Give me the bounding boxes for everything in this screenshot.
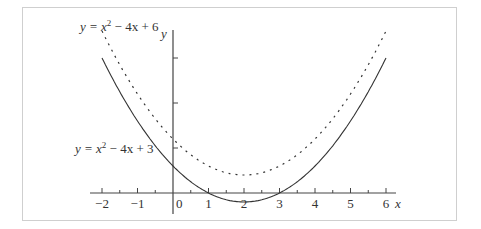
x-tick-label: 4 xyxy=(312,196,319,211)
x-axis-label: x xyxy=(394,196,401,211)
x-tick-labels: −2−10123456 xyxy=(95,196,390,211)
x-ticks xyxy=(102,188,386,193)
y-axis-label: y xyxy=(159,26,167,41)
x-tick-label: 1 xyxy=(205,196,212,211)
x-tick-label: 3 xyxy=(276,196,283,211)
solid-curve xyxy=(102,58,386,202)
x-tick-label: 0 xyxy=(176,196,183,211)
y-ticks xyxy=(173,58,178,148)
dashed-curve-label: y = x2 − 4x + 6 xyxy=(78,18,159,34)
x-tick-label: −2 xyxy=(95,196,109,211)
chart-plot: −2−10123456 x y y = x2 − 4x + 6 y = x2 −… xyxy=(0,0,481,229)
x-tick-label: 6 xyxy=(383,196,390,211)
x-tick-label: 2 xyxy=(241,196,248,211)
x-tick-label: 5 xyxy=(347,196,354,211)
solid-curve-label: y = x2 − 4x + 3 xyxy=(73,140,153,156)
x-tick-label: −1 xyxy=(131,196,145,211)
